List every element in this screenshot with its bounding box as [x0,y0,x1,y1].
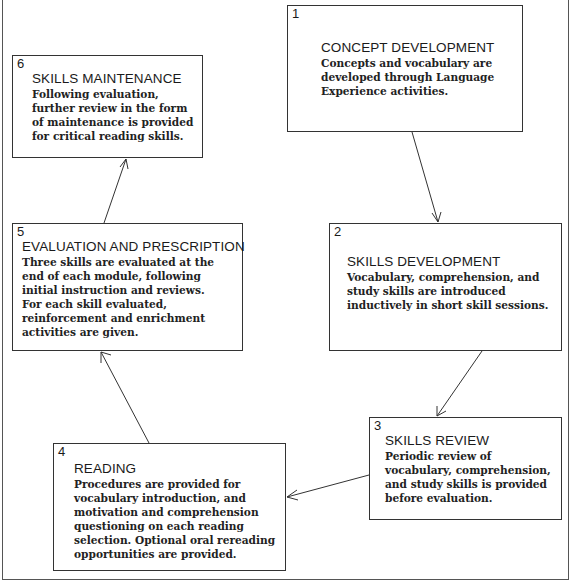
step-title: SKILLS MAINTENANCE [32,71,193,87]
step-number: 4 [58,445,65,459]
step-number: 6 [17,57,24,71]
step-number: 1 [292,7,299,21]
step-description: Vocabulary, comprehension, and study ski… [347,270,548,312]
step-box-skills-review: 3 SKILLS REVIEW Periodic review of vocab… [369,417,562,520]
step-title: CONCEPT DEVELOPMENT [321,40,494,56]
step-box-skills-development: 2 SKILLS DEVELOPMENT Vocabulary, compreh… [329,223,562,351]
step-title: SKILLS DEVELOPMENT [347,254,548,270]
step-box-evaluation-and-prescription: 5 EVALUATION AND PRESCRIPTION Three skil… [12,223,243,351]
step-description: Periodic review of vocabulary, comprehen… [385,449,551,505]
step-box-reading: 4 READING Procedures are provided for vo… [53,443,286,571]
step-description: Procedures are provided for vocabulary i… [74,477,275,561]
step-description: Three skills are evaluated at the end of… [22,255,245,339]
step-description: Following evaluation, further review in … [32,87,193,143]
step-title: SKILLS REVIEW [385,433,551,449]
step-description: Concepts and vocabulary are developed th… [321,56,494,98]
step-box-skills-maintenance: 6 SKILLS MAINTENANCE Following evaluatio… [12,55,203,158]
step-box-concept-development: 1 CONCEPT DEVELOPMENT Concepts and vocab… [287,5,523,132]
step-title: EVALUATION AND PRESCRIPTION [22,239,245,255]
step-number: 3 [374,419,381,433]
step-number: 2 [334,225,341,239]
step-title: READING [74,461,275,477]
step-number: 5 [17,225,24,239]
